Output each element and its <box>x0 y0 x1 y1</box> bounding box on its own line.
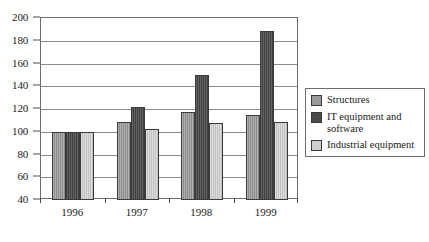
legend-swatch-icon <box>311 140 322 151</box>
y-tick-label: 140 <box>12 80 28 91</box>
y-tick-mark <box>33 199 40 200</box>
y-tick-mark <box>33 62 40 63</box>
bar <box>181 112 195 200</box>
legend-item: Industrial equipment <box>311 139 420 151</box>
legend-label: IT equipment and software <box>327 111 420 134</box>
y-tick-mark <box>33 17 40 18</box>
x-tick-mark <box>234 198 235 203</box>
y-tick-label: 60 <box>17 171 28 182</box>
x-tick-label: 1997 <box>126 206 148 218</box>
legend-label: Structures <box>327 94 370 106</box>
x-tick-label: 1999 <box>255 206 277 218</box>
bars-layer <box>41 18 297 198</box>
x-axis: 1996199719981999 <box>40 203 298 223</box>
bar <box>52 132 66 200</box>
x-tick-mark <box>40 198 41 203</box>
y-tick-label: 180 <box>12 34 28 45</box>
bar <box>117 122 131 200</box>
y-tick-label: 120 <box>12 103 28 114</box>
plot-area <box>40 17 298 199</box>
y-tick-mark <box>33 85 40 86</box>
bar <box>80 132 94 200</box>
legend-label: Industrial equipment <box>327 139 414 151</box>
bar <box>274 122 288 200</box>
y-tick-label: 100 <box>12 125 28 136</box>
bar <box>246 115 260 200</box>
bar <box>131 107 145 200</box>
x-tick-label: 1998 <box>190 206 212 218</box>
y-tick-label: 40 <box>17 194 28 205</box>
y-tick-label: 200 <box>12 12 28 23</box>
bar <box>209 123 223 200</box>
bar <box>145 129 159 200</box>
legend-swatch-icon <box>311 95 322 106</box>
y-tick-label: 160 <box>12 57 28 68</box>
x-tick-mark <box>105 198 106 203</box>
bar <box>66 132 80 200</box>
y-axis: 406080100120140160180200 <box>0 0 40 242</box>
x-tick-label: 1996 <box>61 206 83 218</box>
x-tick-mark <box>297 198 298 203</box>
y-tick-mark <box>33 176 40 177</box>
bar <box>260 31 274 200</box>
y-tick-mark <box>33 39 40 40</box>
y-tick-mark <box>33 130 40 131</box>
x-tick-mark <box>169 198 170 203</box>
y-tick-label: 80 <box>17 148 28 159</box>
legend-item: IT equipment and software <box>311 111 420 134</box>
y-tick-mark <box>33 108 40 109</box>
legend-item: Structures <box>311 94 420 106</box>
bar-chart: 406080100120140160180200 199619971998199… <box>0 0 429 242</box>
bar <box>195 75 209 200</box>
y-tick-mark <box>33 153 40 154</box>
legend-swatch-icon <box>311 112 322 123</box>
chart-legend: StructuresIT equipment and softwareIndus… <box>305 88 425 157</box>
